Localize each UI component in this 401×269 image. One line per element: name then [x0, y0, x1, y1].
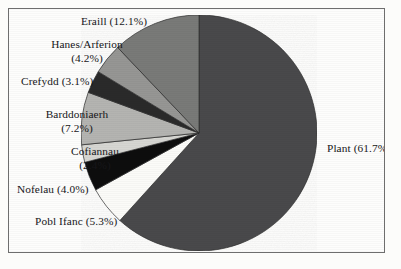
slice-label-pobl-ifanc-text: Pobl Ifanc (5.3%) — [35, 215, 117, 227]
chart-frame: Eraill (12.1%) Hanes/Arferion (4.2%) Cre… — [8, 8, 385, 253]
slice-label-cofiannau-percent: (2.4%) — [79, 159, 111, 171]
slice-label-eraill: Eraill (12.1%) — [81, 15, 147, 29]
slice-label-nofelau-text: Nofelau (4.0%) — [17, 183, 89, 195]
slice-label-barddoniaerh: Barddoniaerh (7.2%) — [13, 108, 141, 135]
slice-label-barddoniaerh-percent: (7.2%) — [61, 122, 93, 134]
slice-label-plant-text: Plant (61.7%) — [327, 142, 385, 154]
slice-label-hanes-arferion-percent: (4.2%) — [71, 52, 103, 64]
slice-label-hanes-arferion-text: Hanes/Arferion — [51, 38, 123, 50]
slice-label-pobl-ifanc: Pobl Ifanc (5.3%) — [35, 215, 117, 229]
scanned-page: Eraill (12.1%) Hanes/Arferion (4.2%) Cre… — [0, 0, 401, 269]
slice-label-crefydd-text: Crefydd (3.1%) — [21, 75, 93, 87]
slice-label-plant: Plant (61.7%) — [327, 142, 385, 156]
slice-label-eraill-text: Eraill (12.1%) — [81, 15, 147, 27]
cutoff-caption-strip — [0, 258, 401, 269]
slice-label-cofiannau: Cofiannau (2.4%) — [43, 145, 147, 172]
slice-label-hanes-arferion: Hanes/Arferion (4.2%) — [21, 38, 153, 65]
slice-label-nofelau: Nofelau (4.0%) — [17, 183, 89, 197]
slice-label-cofiannau-text: Cofiannau — [71, 145, 119, 157]
slice-label-crefydd: Crefydd (3.1%) — [21, 75, 93, 89]
slice-label-barddoniaerh-text: Barddoniaerh — [46, 108, 109, 120]
